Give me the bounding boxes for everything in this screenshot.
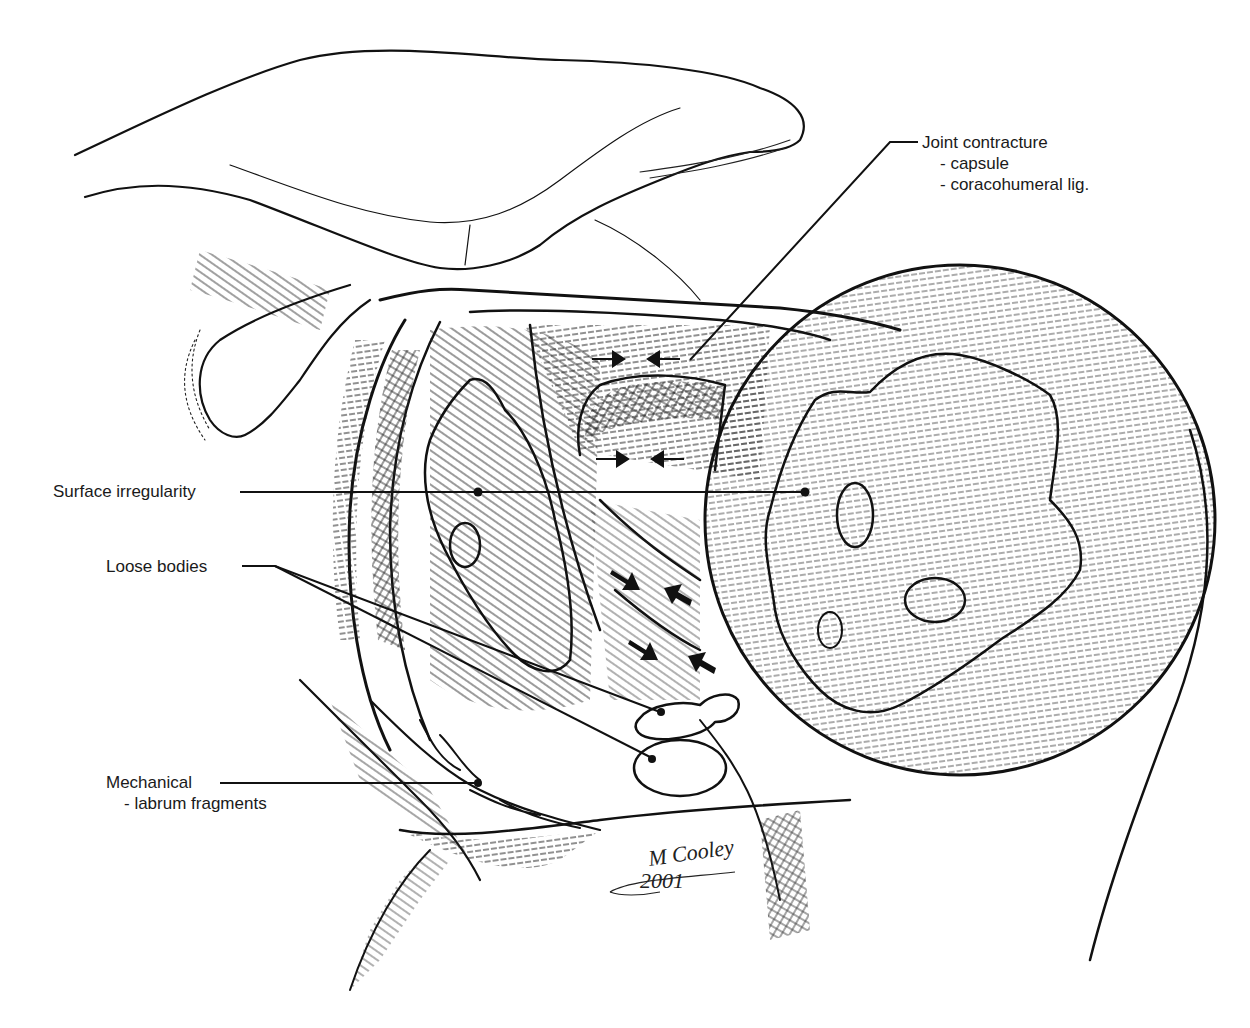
loose-bodies-title: Loose bodies [106,557,207,576]
joint-contracture-item-coracohumeral: - coracohumeral lig. [922,174,1089,195]
loose-bodies [634,695,739,796]
label-loose-bodies: Loose bodies [106,556,207,577]
signature-flourish [600,860,740,900]
mechanical-item-labrum: - labrum fragments [106,793,267,814]
label-mechanical: Mechanical - labrum fragments [106,772,267,814]
mechanical-title: Mechanical [106,773,192,792]
label-surface-irregularity: Surface irregularity [53,481,196,502]
joint-contracture-item-capsule: - capsule [922,153,1089,174]
joint-contracture-title: Joint contracture [922,133,1048,152]
acromion [75,51,804,330]
label-joint-contracture: Joint contracture - capsule - coracohume… [922,132,1089,195]
surface-irregularity-title: Surface irregularity [53,482,196,501]
labrum-fragments [300,680,850,990]
